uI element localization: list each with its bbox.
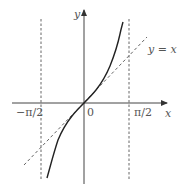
line-annotation: y = x — [148, 44, 177, 55]
tan-curve — [47, 22, 123, 178]
tick-left-label: −π/2 — [16, 107, 43, 118]
tan-graph — [0, 0, 179, 190]
x-axis-label: x — [165, 108, 171, 119]
tick-right-label: π/2 — [134, 107, 152, 118]
origin-label: 0 — [87, 107, 94, 118]
y-axis-label: y — [74, 9, 80, 20]
